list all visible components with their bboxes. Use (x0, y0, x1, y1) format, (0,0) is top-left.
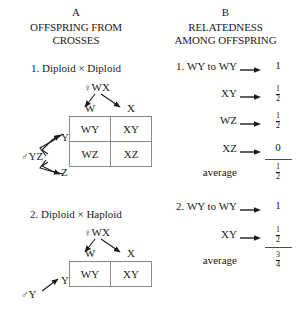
fraction-denominator: 2 (276, 235, 280, 245)
arrow-right-icon (240, 206, 262, 214)
panel-b-title-line2: AMONG OFFSPRING (152, 34, 299, 47)
cross-2-mother-genotype: WX (92, 226, 110, 238)
fraction-numerator: 1 (276, 163, 280, 172)
punnett-1-cell-1-0: WZ (70, 142, 111, 167)
female-symbol-icon: ♀ (84, 227, 92, 238)
relatedness-row: 2. WY to WY 1 (152, 198, 299, 220)
cross-2-father: ♂Y (21, 288, 36, 300)
arrow-right-icon (240, 148, 262, 156)
panel-a: A OFFSPRING FROM CROSSES 1. Diploid × Di… (0, 0, 152, 315)
average-rule-2 (265, 247, 292, 248)
panel-a-title: OFFSPRING FROM CROSSES (0, 21, 152, 46)
fraction: 1 2 (276, 85, 280, 103)
average-value-2: 3 4 (268, 252, 288, 270)
panel-b-title: RELATEDNESS AMONG OFFSPRING (152, 21, 299, 46)
cross-2-mother: ♀WX (84, 226, 110, 238)
punnett-2-cell-0-1: XY (111, 262, 152, 287)
fraction-denominator: 2 (276, 121, 280, 131)
fraction: 1 2 (276, 226, 280, 244)
fraction: 3 4 (276, 251, 280, 269)
arrow-right-icon (240, 120, 262, 128)
cross-1-mother-genotype: WX (92, 81, 110, 93)
fraction-denominator: 2 (276, 94, 280, 104)
fraction-numerator: 1 (276, 112, 280, 121)
figure-root: A OFFSPRING FROM CROSSES 1. Diploid × Di… (0, 0, 299, 315)
arrow-right-icon (240, 66, 262, 74)
relatedness-row: XY 1 2 (152, 226, 299, 248)
punnett-1-col-header-0: W (70, 100, 111, 117)
cross-1-label: 1. Diploid × Diploid (0, 62, 152, 74)
relatedness-label: XZ (222, 142, 237, 154)
relatedness-label: XY (221, 228, 237, 240)
panel-b-title-line1: RELATEDNESS (152, 21, 299, 34)
punnett-1-cell-0-0: WY (70, 117, 111, 142)
cross-2-row-header-0: Y (61, 274, 69, 286)
cross-2-label: 2. Diploid × Haploid (0, 208, 152, 220)
fraction-denominator: 2 (276, 172, 280, 182)
panel-b: B RELATEDNESS AMONG OFFSPRING 1. WY to W… (152, 0, 299, 315)
punnett-2-header-row: W X (70, 245, 152, 262)
male-symbol-icon: ♂ (21, 289, 29, 300)
punnett-1-header-row: W X (70, 100, 152, 117)
average-rule-1 (265, 159, 292, 160)
cross-1-row-header-0: Y (61, 131, 69, 143)
punnett-1-cell-0-1: XY (111, 117, 152, 142)
fraction-denominator: 4 (276, 260, 280, 270)
average-label-1: average (203, 166, 237, 178)
male-symbol-icon: ♂ (21, 151, 29, 162)
fraction-numerator: 3 (276, 251, 280, 260)
average-label-2: average (203, 254, 237, 266)
relatedness-label: 1. WY to WY (176, 60, 237, 72)
relatedness-row: WZ 1 2 (152, 112, 299, 134)
cross-1-father-genotype: YZ (29, 150, 44, 162)
cross-1-father: ♂YZ (21, 150, 43, 162)
punnett-1-row-1: WZ XZ (70, 142, 152, 167)
cross-1-mother: ♀WX (84, 81, 110, 93)
punnett-2-col-header-0: W (70, 245, 111, 262)
relatedness-value: 1 (268, 199, 288, 211)
fraction-numerator: 1 (276, 226, 280, 235)
fraction: 1 2 (276, 163, 280, 181)
punnett-square-1: W X WY XY WZ XZ (69, 100, 152, 167)
relatedness-row: XY 1 2 (152, 85, 299, 107)
panel-b-letter: B (152, 6, 299, 18)
female-symbol-icon: ♀ (84, 82, 92, 93)
cross-1-row-header-1: Z (61, 166, 68, 178)
relatedness-label: XY (221, 87, 237, 99)
relatedness-row: 1. WY to WY 1 (152, 58, 299, 80)
relatedness-value: 0 (268, 141, 288, 153)
arrow-right-icon (240, 93, 262, 101)
panel-a-title-line2: CROSSES (0, 34, 152, 47)
punnett-2-cell-0-0: WY (70, 262, 111, 287)
fraction-numerator: 1 (276, 85, 280, 94)
arrow-right-icon (240, 234, 262, 242)
punnett-2-row-0: WY XY (70, 262, 152, 287)
cross-2-father-genotype: Y (29, 288, 37, 300)
panel-a-title-line1: OFFSPRING FROM (0, 21, 152, 34)
punnett-1-row-0: WY XY (70, 117, 152, 142)
average-value-1: 1 2 (268, 164, 288, 182)
relatedness-label: 2. WY to WY (176, 200, 237, 212)
relatedness-label: WZ (220, 114, 237, 126)
relatedness-value: 1 2 (268, 113, 288, 131)
relatedness-value: 1 2 (268, 86, 288, 104)
fraction: 1 2 (276, 112, 280, 130)
punnett-square-2: W X WY XY (69, 245, 152, 287)
punnett-1-col-header-1: X (111, 100, 152, 117)
punnett-2-col-header-1: X (111, 245, 152, 262)
punnett-1-cell-1-1: XZ (111, 142, 152, 167)
relatedness-value: 1 2 (268, 227, 288, 245)
relatedness-value: 1 (268, 59, 288, 71)
panel-a-letter: A (0, 6, 152, 18)
